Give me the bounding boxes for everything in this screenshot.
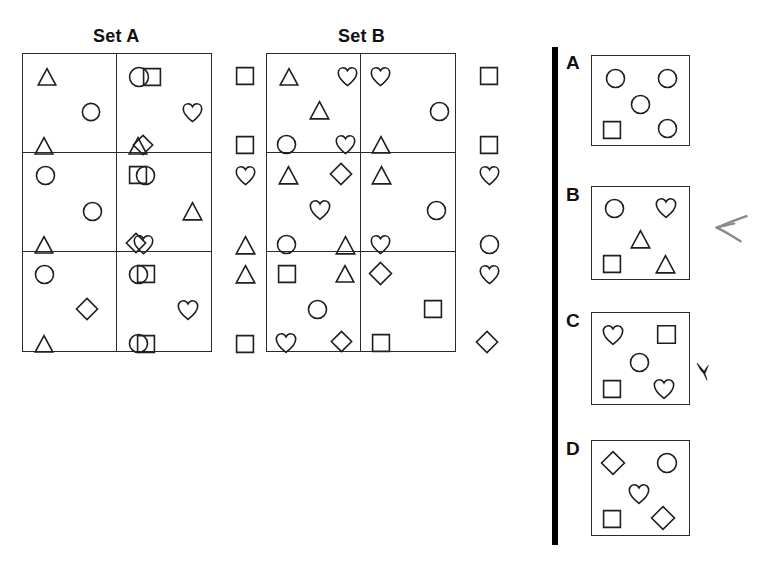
circle-shape: [307, 299, 328, 320]
square-shape: [277, 264, 297, 284]
square-shape: [656, 324, 677, 345]
heart-shape: [479, 165, 500, 186]
triangle-shape: [235, 264, 256, 285]
heart-shape: [182, 102, 203, 123]
square-shape: [423, 299, 443, 319]
diamond-shape: [330, 330, 353, 353]
circle-shape: [35, 165, 56, 186]
circle-shape: [128, 333, 149, 354]
heart-shape: [337, 66, 358, 87]
arrow-left-handdrawn-icon: [703, 210, 759, 244]
heart-shape: [653, 378, 675, 400]
heart-shape: [309, 199, 331, 221]
diamond-shape: [329, 162, 353, 186]
circle-shape: [82, 201, 103, 222]
square-shape: [235, 66, 255, 86]
circle-shape: [81, 102, 101, 122]
diamond-shape: [368, 261, 393, 286]
triangle-shape: [309, 100, 330, 121]
diamond-shape: [475, 330, 499, 354]
triangle-shape: [182, 201, 203, 222]
triangle-shape: [335, 264, 355, 284]
square-shape: [602, 379, 622, 399]
diamond-shape: [75, 297, 99, 321]
matrix-cell-r2c1[interactable]: [267, 153, 361, 252]
heart-shape: [479, 264, 500, 285]
matrix-set-a: [22, 53, 212, 352]
heart-shape: [370, 66, 391, 87]
heart-shape: [602, 324, 624, 346]
matrix-cell-r3c2[interactable]: [117, 252, 211, 351]
matrix-cell-r3c1[interactable]: [267, 252, 361, 351]
matrix-cell-r1c1[interactable]: [23, 54, 117, 153]
matrix-cell-r3c2[interactable]: [361, 252, 455, 351]
option-box-c[interactable]: [591, 312, 690, 405]
square-shape: [602, 254, 622, 274]
circle-shape: [128, 264, 149, 285]
circle-shape: [657, 118, 678, 139]
matrix-cell-r2c2[interactable]: [117, 153, 211, 252]
matrix-set-b: [266, 53, 456, 352]
square-shape: [371, 333, 391, 353]
triangle-shape: [37, 67, 57, 87]
circle-shape: [604, 198, 625, 219]
circle-shape: [426, 200, 447, 221]
set-label-set-a: Set A: [93, 26, 139, 47]
square-shape: [235, 135, 255, 155]
worksheet-canvas: Set ASet BABCD: [0, 0, 761, 569]
triangle-shape: [371, 165, 392, 186]
triangle-shape: [655, 254, 676, 275]
matrix-cell-r1c1[interactable]: [267, 54, 361, 153]
heart-shape: [628, 483, 650, 505]
option-box-d[interactable]: [591, 440, 690, 536]
diamond-shape: [650, 505, 676, 531]
heart-shape: [235, 165, 256, 186]
matrix-cell-r1c2[interactable]: [361, 54, 455, 153]
circle-shape: [128, 66, 150, 88]
circle-shape: [657, 68, 678, 89]
triangle-shape: [630, 229, 651, 250]
square-shape: [479, 135, 499, 155]
triangle-shape: [235, 235, 256, 256]
option-box-b[interactable]: [591, 186, 690, 280]
option-letter-c: C: [566, 310, 580, 332]
matrix-cell-r3c1[interactable]: [23, 252, 117, 351]
circle-shape: [630, 94, 651, 115]
triangle-shape: [34, 334, 54, 354]
option-letter-a: A: [566, 52, 580, 74]
check-bird-mark-icon: [695, 360, 715, 382]
option-box-a[interactable]: [591, 55, 690, 146]
circle-shape: [605, 68, 626, 89]
triangle-shape: [371, 135, 391, 155]
square-shape: [602, 509, 622, 529]
heart-shape: [275, 332, 297, 354]
circle-shape: [429, 101, 450, 122]
triangle-shape: [278, 165, 299, 186]
option-letter-d: D: [566, 438, 580, 460]
triangle-shape: [279, 67, 299, 87]
section-divider-bar: [552, 47, 558, 545]
diamond-shape: [600, 450, 626, 476]
circle-shape: [629, 352, 650, 373]
matrix-cell-r2c2[interactable]: [361, 153, 455, 252]
diamond-shape: [125, 232, 147, 254]
circle-shape: [656, 452, 678, 474]
square-shape: [602, 120, 622, 140]
circle-shape: [276, 134, 297, 155]
matrix-cell-r2c1[interactable]: [23, 153, 117, 252]
square-shape: [235, 334, 255, 354]
square-shape: [479, 66, 499, 86]
option-letter-b: B: [566, 184, 580, 206]
matrix-cell-r1c2[interactable]: [117, 54, 211, 153]
set-label-set-b: Set B: [338, 26, 385, 47]
heart-shape: [335, 134, 356, 155]
heart-shape: [177, 299, 199, 321]
circle-shape: [479, 234, 500, 255]
heart-shape: [655, 197, 677, 219]
circle-shape: [34, 264, 55, 285]
square-shape: [128, 165, 148, 185]
